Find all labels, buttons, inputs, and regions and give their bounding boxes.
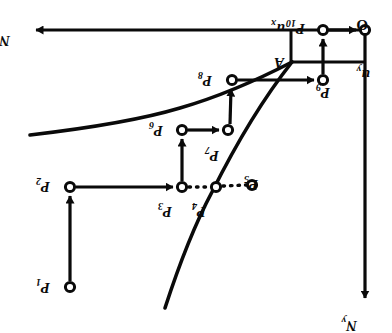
label-p5-sub: 5: [244, 174, 249, 185]
label-p4-sub: 4: [192, 201, 198, 212]
label-axis-ny: N y: [341, 315, 358, 333]
label-p2-sub: 2: [36, 176, 42, 187]
label-unit-y-base: u: [362, 67, 370, 83]
label-axis-nx: N x: [0, 30, 11, 49]
label-unit-x: u x: [271, 18, 285, 37]
label-origin: O: [356, 17, 368, 33]
point-marker-p6[interactable]: [177, 125, 186, 134]
label-axis-ny-sub: y: [341, 315, 347, 326]
label-p10-sub: 10: [286, 18, 296, 29]
diagram-canvas: P 1 P 2 P 3 P 4 P 5 P 6 P 7: [0, 0, 392, 333]
label-p8-sub: 8: [198, 70, 203, 81]
point-marker-p1[interactable]: [65, 282, 74, 291]
label-p1-sub: 1: [36, 277, 41, 288]
point-marker-p7[interactable]: [223, 125, 232, 134]
label-unit-x-base: u: [277, 21, 285, 37]
segment-p7-p8: [230, 89, 231, 124]
label-p7: P 7: [204, 145, 219, 164]
segment-p4-p5: [223, 185, 246, 186]
label-junction-a: A: [274, 55, 285, 71]
point-marker-p4[interactable]: [211, 182, 220, 191]
label-p2: P 2: [36, 176, 50, 195]
label-unit-x-sub: x: [271, 18, 277, 29]
point-marker-p8[interactable]: [227, 75, 236, 84]
point-marker-p3[interactable]: [177, 182, 186, 191]
label-junction-a-text: A: [274, 55, 285, 71]
figure-root: P 1 P 2 P 3 P 4 P 5 P 6 P 7: [0, 0, 392, 333]
point-marker-p10[interactable]: [318, 25, 327, 34]
label-p3: P 3: [158, 201, 172, 220]
label-p4: P 4: [192, 201, 206, 220]
label-unit-y-sub: y: [356, 64, 362, 75]
label-origin-text: O: [356, 17, 368, 33]
label-p7-sub: 7: [204, 145, 210, 156]
label-unit-y: u y: [356, 64, 370, 83]
label-p6: P 6: [149, 120, 163, 139]
label-p6-sub: 6: [149, 120, 154, 131]
label-axis-nx-base: N: [0, 33, 11, 49]
label-p10: P 10: [286, 18, 305, 37]
label-p3-sub: 3: [158, 201, 164, 212]
point-marker-p2[interactable]: [65, 182, 74, 191]
label-p8: P 8: [198, 70, 212, 89]
label-p5: P 5: [244, 174, 258, 193]
label-p1: P 1: [36, 277, 50, 296]
label-p9-sub: 9: [316, 82, 321, 93]
